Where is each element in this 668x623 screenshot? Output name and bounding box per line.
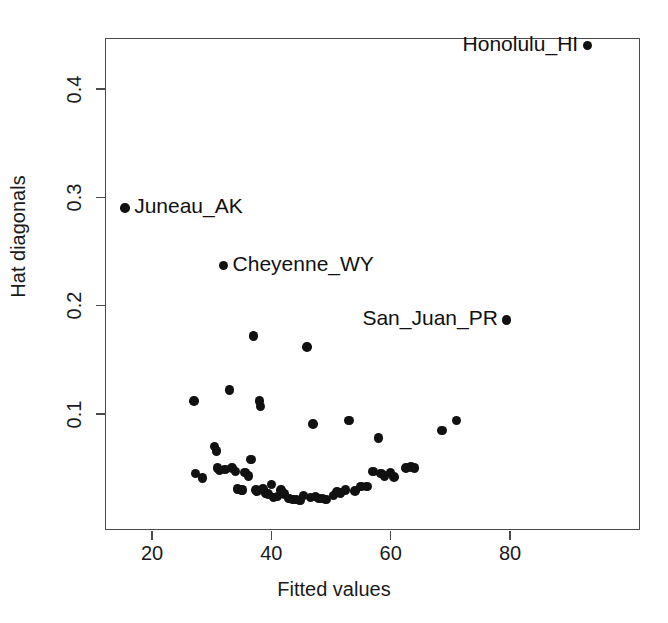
point-label-juneau-ak: Juneau_AK bbox=[134, 194, 243, 218]
y-tick-label-text: 0.3 bbox=[64, 183, 87, 211]
data-point bbox=[302, 342, 312, 352]
plot-panel-frame bbox=[105, 38, 640, 530]
y-tick-mark bbox=[96, 305, 105, 306]
x-axis-title: Fitted values bbox=[0, 578, 668, 601]
data-point bbox=[344, 416, 354, 426]
y-tick-label: 0.2 bbox=[58, 296, 92, 316]
x-tick-mark bbox=[271, 531, 272, 540]
data-point bbox=[362, 482, 372, 492]
data-point bbox=[249, 331, 259, 341]
x-tick-label: 80 bbox=[480, 542, 540, 565]
data-point bbox=[502, 315, 512, 325]
data-point bbox=[120, 203, 130, 213]
data-point bbox=[189, 396, 199, 406]
scatter-plot: 0.10.20.30.4 20406080 Honolulu_HIJuneau_… bbox=[0, 0, 668, 623]
y-tick-label: 0.4 bbox=[58, 79, 92, 99]
data-point bbox=[308, 419, 318, 429]
y-tick-mark bbox=[96, 88, 105, 89]
y-tick-label-text: 0.4 bbox=[64, 75, 87, 103]
data-point bbox=[244, 471, 254, 481]
point-label-cheyenne-wy: Cheyenne_WY bbox=[233, 252, 374, 276]
data-point bbox=[212, 446, 222, 456]
y-tick-mark bbox=[96, 413, 105, 414]
data-point bbox=[238, 485, 248, 495]
data-point bbox=[437, 426, 447, 436]
x-tick-label: 20 bbox=[122, 542, 182, 565]
x-tick-label: 40 bbox=[241, 542, 301, 565]
y-tick-mark bbox=[96, 197, 105, 198]
data-point bbox=[267, 480, 277, 490]
point-label-honolulu-hi: Honolulu_HI bbox=[463, 32, 579, 56]
x-tick-mark bbox=[151, 531, 152, 540]
y-tick-label: 0.3 bbox=[58, 187, 92, 207]
data-point bbox=[389, 472, 399, 482]
x-tick-mark bbox=[509, 531, 510, 540]
y-axis-title: Hat diagonals bbox=[7, 175, 30, 297]
data-point bbox=[374, 433, 384, 443]
x-tick-mark bbox=[390, 531, 391, 540]
data-point bbox=[410, 463, 420, 473]
y-tick-label-text: 0.1 bbox=[64, 400, 87, 428]
data-point bbox=[198, 473, 208, 483]
y-tick-label: 0.1 bbox=[58, 404, 92, 424]
data-point bbox=[225, 385, 235, 395]
x-tick-label: 60 bbox=[361, 542, 421, 565]
data-point bbox=[246, 455, 256, 465]
data-point bbox=[341, 485, 351, 495]
y-tick-label-text: 0.2 bbox=[64, 292, 87, 320]
point-label-san-juan-pr: San_Juan_PR bbox=[362, 306, 497, 330]
